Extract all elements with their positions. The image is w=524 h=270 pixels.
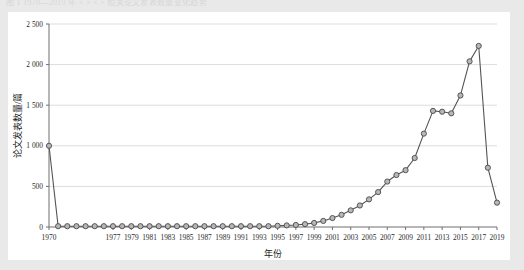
chart-svg: 05001 0001 5002 0002 500 197019771979198… (8, 12, 510, 260)
series-line-papers (49, 46, 497, 226)
svg-text:2013: 2013 (435, 233, 450, 242)
svg-text:1979: 1979 (124, 233, 139, 242)
figure-card: 05001 0001 5002 0002 500 197019771979198… (8, 12, 510, 260)
svg-text:2 500: 2 500 (26, 20, 43, 29)
y-axis-tick-labels: 05001 0001 5002 0002 500 (26, 20, 43, 232)
svg-text:1989: 1989 (215, 233, 230, 242)
svg-text:2005: 2005 (362, 233, 377, 242)
svg-text:1999: 1999 (307, 233, 322, 242)
svg-text:500: 500 (32, 182, 43, 191)
svg-text:1995: 1995 (270, 233, 285, 242)
svg-text:1983: 1983 (160, 233, 175, 242)
svg-text:2011: 2011 (417, 233, 432, 242)
svg-text:1970: 1970 (42, 233, 57, 242)
line-chart: 05001 0001 5002 0002 500 197019771979198… (8, 12, 510, 260)
svg-text:2 000: 2 000 (26, 60, 43, 69)
svg-text:2009: 2009 (398, 233, 413, 242)
svg-text:2015: 2015 (453, 233, 468, 242)
figure-page: 图 1 1970—2019 年 × × × × 相关论文发表数量变化趋势 050… (0, 0, 524, 270)
svg-text:2007: 2007 (380, 233, 395, 242)
svg-text:2003: 2003 (343, 233, 358, 242)
x-axis-tick-labels: 1970197719791981198319851987198919911993… (42, 233, 505, 242)
svg-text:1991: 1991 (234, 233, 249, 242)
series-markers (46, 43, 499, 228)
svg-text:1981: 1981 (142, 233, 157, 242)
svg-text:0: 0 (39, 223, 43, 232)
svg-text:2019: 2019 (490, 233, 505, 242)
svg-text:1985: 1985 (179, 233, 194, 242)
y-axis-title: 论文发表数量/篇 (12, 93, 23, 159)
svg-text:1993: 1993 (252, 233, 267, 242)
svg-text:2017: 2017 (471, 233, 486, 242)
svg-text:1987: 1987 (197, 233, 212, 242)
svg-text:1 000: 1 000 (26, 141, 43, 150)
svg-text:1977: 1977 (106, 233, 121, 242)
x-axis-title: 年份 (264, 248, 282, 259)
gridlines (49, 24, 497, 186)
svg-text:1997: 1997 (288, 233, 303, 242)
svg-text:2001: 2001 (325, 233, 340, 242)
figure-caption-clipped: 图 1 1970—2019 年 × × × × 相关论文发表数量变化趋势 (6, 0, 306, 8)
svg-text:1 500: 1 500 (26, 101, 43, 110)
